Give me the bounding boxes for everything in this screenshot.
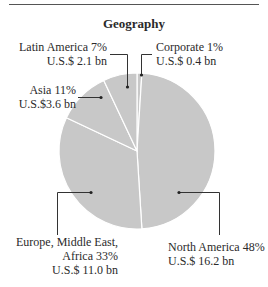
emea-percent: Africa 33% (6, 249, 118, 263)
pie-slices (59, 73, 215, 229)
emea-value: U.S.$ 11.0 bn (6, 263, 118, 277)
na-name: North America 48% (168, 240, 265, 254)
na-value: U.S.$ 16.2 bn (168, 254, 265, 268)
label-emea: Europe, Middle East, Africa 33% U.S.$ 11… (6, 235, 118, 277)
latam-name: Latin America 7% (6, 40, 107, 54)
emea-name: Europe, Middle East, (6, 235, 118, 249)
leader-corporate (142, 55, 153, 76)
corporate-value: U.S.$ 0.4 bn (156, 54, 223, 68)
label-latin-america: Latin America 7% U.S.$ 2.1 bn (6, 40, 107, 68)
label-asia: Asia 11% U.S.$3.6 bn (6, 83, 76, 111)
pie-slice-north-america (137, 73, 215, 229)
label-corporate: Corporate 1% U.S.$ 0.4 bn (156, 40, 223, 68)
asia-name: Asia 11% (6, 83, 76, 97)
latam-value: U.S.$ 2.1 bn (6, 54, 107, 68)
asia-value: U.S.$3.6 bn (6, 97, 76, 111)
label-north-america: North America 48% U.S.$ 16.2 bn (168, 240, 265, 268)
corporate-name: Corporate 1% (156, 40, 223, 54)
